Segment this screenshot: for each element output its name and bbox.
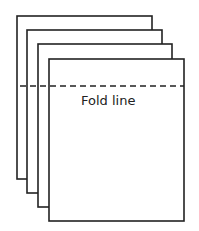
paper-stack-diagram: Fold line xyxy=(0,0,199,231)
sheet-4 xyxy=(49,59,184,221)
fold-line-label: Fold line xyxy=(81,93,135,108)
